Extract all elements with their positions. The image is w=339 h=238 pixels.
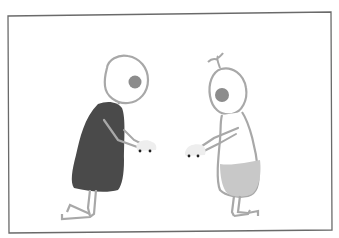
- illustration: [0, 0, 339, 238]
- wheel-icon: [197, 155, 200, 158]
- left-head: [105, 56, 148, 103]
- picture-frame: [8, 12, 332, 233]
- left-eye: [129, 76, 142, 89]
- wheel-icon: [149, 150, 152, 153]
- wheel-icon: [139, 150, 142, 153]
- right-diaper: [220, 160, 261, 197]
- wheel-icon: [188, 155, 191, 158]
- right-eye: [215, 88, 229, 102]
